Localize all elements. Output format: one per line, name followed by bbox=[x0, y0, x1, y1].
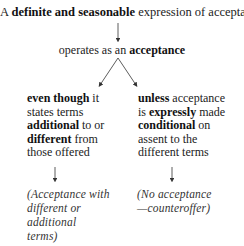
left-result: (Acceptance with different or additional… bbox=[27, 187, 110, 243]
right-result-line: —counteroffer) bbox=[137, 201, 212, 215]
right-line: unless acceptance bbox=[138, 92, 225, 106]
left-line: even though it bbox=[27, 92, 104, 106]
title-bold: definite and seasonable bbox=[11, 5, 135, 19]
title-prefix: A bbox=[0, 5, 11, 19]
left-line: additional to or bbox=[27, 119, 104, 133]
left-line: states terms bbox=[27, 106, 104, 120]
right-line: assent to the bbox=[138, 133, 225, 147]
right-line: is expressly made bbox=[138, 106, 225, 120]
right-result-line: (No acceptance bbox=[137, 187, 212, 201]
arrow-middle-to-right bbox=[118, 58, 136, 85]
left-line: those offered bbox=[27, 146, 104, 160]
left-result-line: terms) bbox=[27, 229, 110, 243]
middle-statement: operates as an acceptance bbox=[0, 43, 244, 57]
title-suffix: expression of acceptance bbox=[135, 5, 244, 19]
right-result: (No acceptance —counteroffer) bbox=[137, 187, 212, 215]
left-line: different from bbox=[27, 133, 104, 147]
left-result-line: additional bbox=[27, 215, 110, 229]
right-line: different terms bbox=[138, 146, 225, 160]
left-branch-condition: even though it states terms additional t… bbox=[27, 92, 104, 160]
arrow-middle-to-left bbox=[100, 58, 118, 85]
root-statement: A definite and seasonable expression of … bbox=[0, 4, 244, 20]
left-result-line: (Acceptance with bbox=[27, 187, 110, 201]
left-result-line: different or bbox=[27, 201, 110, 215]
middle-prefix: operates as an bbox=[59, 43, 129, 57]
right-branch-condition: unless acceptance is expressly made cond… bbox=[138, 92, 225, 160]
right-line: conditional on bbox=[138, 119, 225, 133]
middle-bold: acceptance bbox=[129, 43, 185, 57]
